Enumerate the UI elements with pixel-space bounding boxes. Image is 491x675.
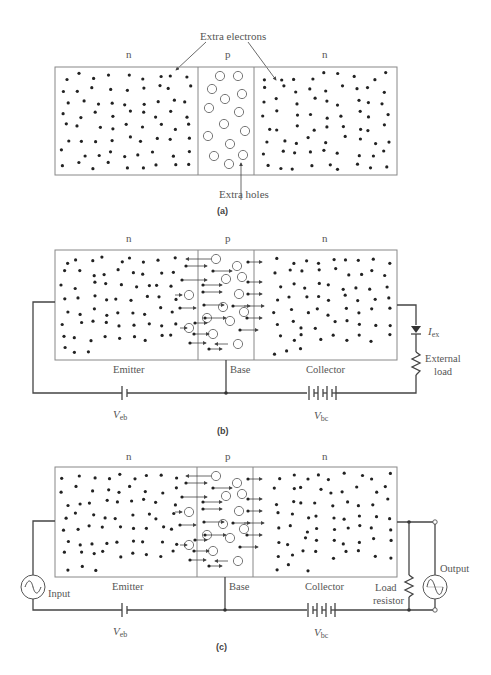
- electron: [60, 148, 63, 151]
- electron: [93, 294, 96, 297]
- electron: [246, 280, 249, 283]
- electron: [387, 141, 390, 144]
- electron: [156, 137, 159, 140]
- electron: [389, 324, 392, 327]
- electron: [80, 551, 83, 554]
- hole: [232, 478, 241, 487]
- electron: [66, 262, 69, 265]
- electron: [114, 517, 117, 520]
- hole: [225, 316, 234, 325]
- electron: [277, 541, 280, 544]
- electron-pointer-left: [176, 42, 206, 70]
- electron: [94, 111, 97, 114]
- electron: [276, 511, 279, 514]
- electron: [148, 284, 151, 287]
- electron: [142, 498, 145, 501]
- electron: [117, 324, 120, 327]
- hole: [220, 94, 229, 103]
- electron: [275, 257, 278, 260]
- electron: [92, 77, 95, 80]
- electron: [143, 103, 146, 106]
- electron: [262, 152, 265, 155]
- electron: [128, 74, 131, 77]
- electron: [314, 327, 317, 330]
- electron: [89, 339, 92, 342]
- output-label: Output: [440, 563, 469, 574]
- electron: [97, 103, 100, 106]
- electron: [286, 543, 289, 546]
- electron: [105, 314, 108, 317]
- electron: [277, 526, 280, 529]
- electron: [372, 258, 375, 261]
- electron: [287, 563, 290, 566]
- electron: [289, 524, 292, 527]
- electron: [332, 334, 335, 337]
- electron: [357, 311, 360, 314]
- electron: [104, 516, 107, 519]
- panel-a: Extra electrons n p n Extra holes (a): [55, 30, 397, 216]
- emitter-label: Emitter: [113, 364, 145, 375]
- electron: [60, 477, 63, 480]
- electron: [319, 488, 322, 491]
- electron: [87, 350, 90, 353]
- electron: [347, 273, 350, 276]
- electron: [336, 152, 339, 155]
- electron: [155, 284, 158, 287]
- electron: [374, 555, 377, 558]
- electron: [157, 100, 160, 103]
- electron: [193, 321, 196, 324]
- electron: [62, 529, 65, 532]
- electron: [73, 336, 76, 339]
- electron: [74, 485, 77, 488]
- electron: [79, 502, 82, 505]
- electron: [279, 167, 282, 170]
- electron: [246, 497, 249, 500]
- electron: [91, 489, 94, 492]
- electron: [114, 298, 117, 301]
- electron: [74, 511, 77, 514]
- electron: [133, 477, 136, 480]
- electron: [310, 164, 313, 167]
- electron: [389, 528, 392, 531]
- caption-b: (b): [217, 426, 229, 436]
- electron: [383, 274, 386, 277]
- emitter-wire: [33, 302, 122, 393]
- electron: [342, 542, 345, 545]
- resistor-icon: [412, 352, 420, 375]
- electron: [78, 269, 81, 272]
- electron: [160, 474, 163, 477]
- electron: [76, 296, 79, 299]
- load-resistor-label-2: resistor: [373, 595, 404, 606]
- electron: [374, 324, 377, 327]
- electron: [142, 111, 145, 114]
- region-label-n-right: n: [322, 48, 328, 60]
- electron: [267, 164, 270, 167]
- electron: [246, 477, 249, 480]
- electrons-collector: [261, 71, 391, 171]
- electron: [77, 72, 80, 75]
- electron: [175, 543, 178, 546]
- electron: [380, 102, 383, 105]
- electron: [151, 150, 154, 153]
- electron: [388, 307, 391, 310]
- electron: [172, 271, 175, 274]
- region-label-n-left: n: [126, 450, 132, 462]
- electron: [61, 323, 64, 326]
- electrons-collector: [272, 257, 392, 356]
- electron: [309, 150, 312, 153]
- region-label-p: p: [225, 232, 231, 244]
- electron: [139, 140, 142, 143]
- electron: [277, 555, 280, 558]
- electron: [160, 272, 163, 275]
- hole: [211, 471, 220, 480]
- electron: [101, 550, 104, 553]
- electron: [79, 543, 82, 546]
- electron: [371, 503, 374, 506]
- electron: [275, 97, 278, 100]
- electron: [174, 128, 177, 131]
- electron: [115, 541, 118, 544]
- electron: [293, 487, 296, 490]
- hole: [233, 556, 242, 565]
- hole: [225, 533, 234, 542]
- electron: [336, 104, 339, 107]
